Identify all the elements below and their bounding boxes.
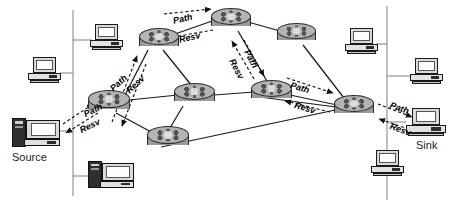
source-label: Source	[12, 151, 47, 163]
monitor-foot	[347, 51, 376, 54]
keyboard	[24, 139, 60, 146]
router-top-face	[251, 80, 292, 97]
monitor-foot	[373, 173, 402, 176]
host-mid-right[interactable]	[410, 58, 443, 84]
monitor-screen	[415, 58, 439, 74]
monitor-foot	[92, 47, 121, 50]
monitor-screen	[33, 57, 57, 73]
router-top-face	[334, 95, 374, 112]
link-topmid-topright	[248, 22, 280, 31]
rsvp-network-diagram: Source Sink Path Resv Path Resv Path Res…	[0, 0, 460, 214]
host-bottom-left[interactable]	[88, 160, 134, 190]
monitor-screen	[412, 108, 441, 125]
host-top-left[interactable]	[90, 24, 123, 50]
router-top-right[interactable]	[277, 23, 316, 46]
host-source[interactable]	[12, 117, 60, 149]
router-top-face	[211, 8, 251, 25]
router-bottom[interactable]	[147, 126, 189, 151]
monitor-foot	[412, 81, 441, 84]
link-center-rightmid	[214, 92, 254, 95]
monitor-screen	[350, 28, 374, 44]
link-center-bottom	[170, 106, 183, 128]
router-top-face	[147, 126, 189, 144]
host-top-right[interactable]	[345, 28, 378, 54]
host-bottom-right[interactable]	[371, 150, 404, 176]
monitor-foot	[30, 80, 59, 83]
host-mid-left[interactable]	[28, 57, 61, 83]
host-sink[interactable]	[406, 108, 446, 136]
keyboard	[100, 181, 134, 188]
router-right-mid[interactable]	[251, 80, 292, 104]
router-top-face	[277, 23, 316, 39]
monitor-screen	[95, 24, 119, 40]
router-upper-left[interactable]	[139, 28, 179, 52]
router-center[interactable]	[174, 83, 215, 107]
monitor-foot	[408, 133, 443, 136]
link-upperleft-center	[163, 50, 192, 86]
link-ingress-center	[129, 95, 178, 100]
router-top-face	[174, 83, 215, 100]
monitor-screen	[376, 150, 400, 166]
monitor-screen	[102, 163, 134, 181]
router-top-face	[139, 28, 179, 45]
router-top-mid[interactable]	[211, 8, 251, 32]
sink-label: Sink	[416, 139, 437, 151]
monitor-screen	[26, 120, 60, 139]
router-egress[interactable]	[334, 95, 374, 119]
